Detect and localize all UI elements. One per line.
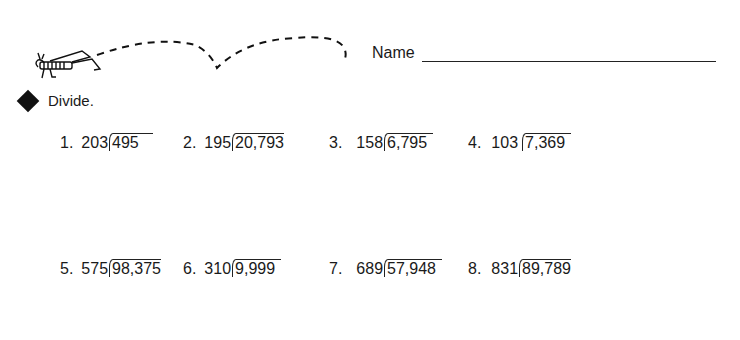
jump-path-decoration [95,30,365,75]
problem-1: 1. 203 495 [60,133,153,152]
name-label: Name [372,44,415,62]
divisor: 158 [356,134,383,152]
problem-number: 3. [329,134,342,152]
problem-number: 5. [60,260,73,278]
dividend: 495 [109,133,153,151]
dividend: 7,369 [522,133,571,151]
divisor: 103 [491,134,518,152]
problem-number: 1. [60,134,73,152]
problem-number: 2. [183,134,196,152]
worksheet-header: Name [0,0,740,80]
problem-7: 7. 689 57,948 [329,259,442,278]
instruction: Divide. [14,92,94,109]
divisor: 831 [491,260,518,278]
dividend: 57,948 [384,259,442,277]
dividend: 98,375 [109,259,161,277]
divisor: 689 [356,260,383,278]
dividend: 6,795 [384,133,433,151]
dividend: 9,999 [232,259,281,277]
instruction-text: Divide. [48,92,94,109]
problem-2: 2. 195 20,793 [183,133,284,152]
divisor: 195 [204,134,231,152]
problem-number: 4. [468,134,481,152]
divisor: 310 [204,260,231,278]
problem-3: 3. 158 6,795 [329,133,433,152]
dividend: 20,793 [232,133,284,151]
problem-5: 5. 575 98,375 [60,259,161,278]
problem-8: 8. 831 89,789 [468,259,571,278]
problem-number: 8. [468,260,481,278]
name-input-line[interactable] [422,61,716,62]
diamond-icon [17,89,40,112]
problem-number: 6. [183,260,196,278]
problem-4: 4. 103 7,369 [468,133,571,152]
problem-6: 6. 310 9,999 [183,259,281,278]
divisor: 203 [81,134,108,152]
problem-number: 7. [329,260,342,278]
dividend: 89,789 [519,259,571,277]
divisor: 575 [81,260,108,278]
